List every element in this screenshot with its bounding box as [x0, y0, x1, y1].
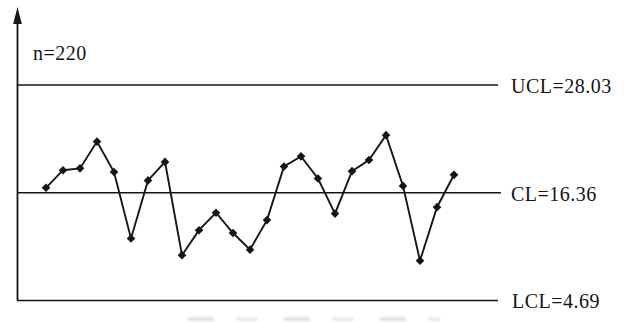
data-point-marker: [263, 216, 272, 225]
y-axis-arrow-icon: [13, 7, 22, 24]
data-point-marker: [399, 182, 408, 191]
data-point-marker: [110, 168, 119, 177]
lcl-label: LCL=4.69: [512, 289, 600, 313]
sample-size-label: n=220: [33, 41, 87, 65]
data-point-marker: [127, 234, 136, 243]
series-line: [46, 135, 454, 261]
cl-label: CL=16.36: [511, 182, 597, 206]
cutoff-caption-artifact: [188, 317, 440, 321]
data-point-marker: [416, 256, 425, 265]
data-point-marker: [331, 209, 340, 218]
data-point-marker: [433, 203, 442, 212]
data-point-marker: [450, 171, 459, 180]
control-chart: n=220 UCL=28.03 CL=16.36 LCL=4.69: [0, 0, 624, 322]
data-series: [42, 131, 459, 265]
data-point-marker: [280, 162, 289, 171]
chart-canvas: [0, 0, 624, 322]
ucl-label: UCL=28.03: [511, 74, 612, 98]
